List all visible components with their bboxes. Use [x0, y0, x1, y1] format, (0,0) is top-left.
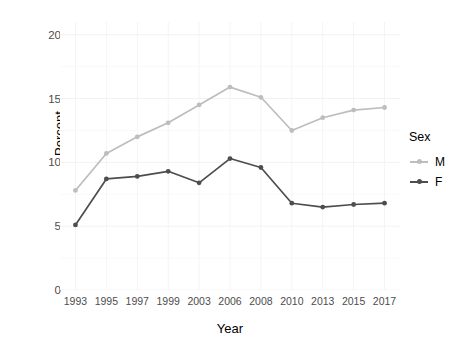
line-chart: Percent Year 05101520 199319951997199920…	[0, 0, 467, 347]
data-point	[351, 108, 356, 113]
x-tick-label: 1997	[126, 295, 149, 307]
x-tick-label: 2003	[187, 295, 210, 307]
legend-key-icon	[409, 175, 429, 189]
x-tick-label: 2006	[218, 295, 241, 307]
x-tick-label: 2013	[311, 295, 334, 307]
data-point	[259, 95, 264, 100]
data-point	[166, 169, 171, 174]
x-tick-label: 2010	[280, 295, 303, 307]
data-point	[259, 165, 264, 170]
y-tick-label: 10	[17, 156, 61, 168]
data-point	[104, 177, 109, 182]
legend-item-F[interactable]: F	[409, 173, 445, 191]
x-tick-label: 2015	[342, 295, 365, 307]
series-layer	[60, 22, 400, 290]
y-tick-label: 0	[17, 284, 61, 296]
y-tick-label: 20	[17, 29, 61, 41]
data-point	[73, 223, 78, 228]
data-point	[320, 205, 325, 210]
plot-panel	[60, 22, 400, 290]
legend-title: Sex	[409, 130, 445, 144]
x-tick-label: 1995	[95, 295, 118, 307]
data-point	[135, 134, 140, 139]
data-point	[197, 180, 202, 185]
x-tick-label: 2008	[249, 295, 272, 307]
x-tick-label: 1999	[156, 295, 179, 307]
x-axis-title: Year	[60, 321, 400, 336]
y-tick-label: 15	[17, 93, 61, 105]
data-point	[104, 151, 109, 156]
series-line-M	[75, 87, 384, 190]
data-point	[135, 174, 140, 179]
data-point	[166, 120, 171, 125]
legend: Sex MF	[409, 130, 445, 193]
series-line-F	[75, 159, 384, 225]
data-point	[289, 128, 294, 133]
x-tick-label: 1993	[64, 295, 87, 307]
data-point	[228, 156, 233, 161]
legend-item-label: M	[435, 155, 445, 169]
data-point	[382, 105, 387, 110]
legend-item-M[interactable]: M	[409, 153, 445, 171]
legend-key-icon	[409, 155, 429, 169]
data-point	[197, 103, 202, 108]
legend-item-label: F	[435, 175, 442, 189]
legend-items: MF	[409, 153, 445, 191]
x-tick-label: 2017	[373, 295, 396, 307]
data-point	[320, 115, 325, 120]
data-point	[228, 85, 233, 90]
data-point	[73, 188, 78, 193]
data-point	[351, 202, 356, 207]
y-tick-label: 5	[17, 220, 61, 232]
data-point	[289, 201, 294, 206]
data-point	[382, 201, 387, 206]
